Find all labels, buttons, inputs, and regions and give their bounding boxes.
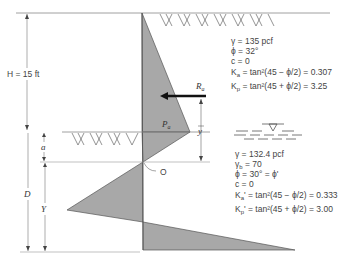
svg-text:Ka' = tan²(45 − ϕ/2) = 0.333: Ka' = tan²(45 − ϕ/2) = 0.333 <box>235 190 338 201</box>
point-o-label: O <box>160 167 167 177</box>
sheet-pile-diagram: O Ra Pa y H = 15 ft a D Y <box>0 0 364 262</box>
h-label: H = 15 ft <box>7 69 40 79</box>
svg-text:Ka = tan²(45 − ϕ/2) = 0.307: Ka = tan²(45 − ϕ/2) = 0.307 <box>231 67 332 78</box>
svg-text:c = 0: c = 0 <box>231 56 250 66</box>
svg-text:Kp' = tan²(45 + ϕ/2) = 3.00: Kp' = tan²(45 + ϕ/2) = 3.00 <box>235 204 333 215</box>
lower-soil-properties: γ = 132.4 pcf γb = 70 ϕ = 30° = ϕ' c = 0… <box>235 149 338 215</box>
active-pressure-below-dredge <box>142 132 190 162</box>
toe-pressure-area <box>143 222 295 250</box>
svg-text:γ = 135 pcf: γ = 135 pcf <box>231 36 273 46</box>
upper-soil-properties: γ = 135 pcf ϕ = 32° c = 0 Ka = tan²(45 −… <box>231 36 332 92</box>
active-pressure-area <box>142 13 190 132</box>
d-label: D <box>23 189 31 199</box>
svg-text:γ = 132.4 pcf: γ = 132.4 pcf <box>235 149 285 159</box>
o-leader <box>144 163 156 171</box>
a-label: a <box>41 142 46 152</box>
dredge-soil-hatch <box>72 133 138 145</box>
net-passive-pressure-area <box>67 162 143 222</box>
ra-label: Ra <box>195 81 205 92</box>
svg-text:ϕ = 32°: ϕ = 32° <box>231 46 258 56</box>
ybar-label: y <box>197 126 202 136</box>
svg-text:ϕ = 30° = ϕ': ϕ = 30° = ϕ' <box>235 169 279 179</box>
top-soil-hatch <box>160 14 274 26</box>
svg-text:Kp = tan²(45 + ϕ/2) = 3.25: Kp = tan²(45 + ϕ/2) = 3.25 <box>231 81 328 92</box>
water-table-icon <box>234 124 302 139</box>
svg-text:c = 0: c = 0 <box>235 179 254 189</box>
